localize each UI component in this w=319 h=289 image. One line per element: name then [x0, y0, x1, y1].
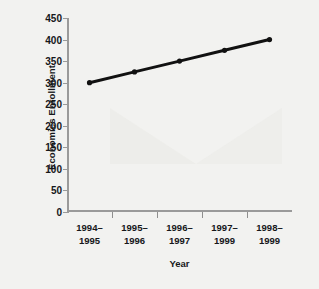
x-tick-label: 1994–1995 [76, 222, 102, 247]
y-tick-mark [63, 212, 68, 213]
x-tick-mark [202, 212, 203, 218]
x-tick-label: 1995–1996 [121, 222, 147, 247]
data-point-marker [177, 59, 182, 64]
y-tick-label: 150 [34, 142, 62, 153]
data-point-marker [132, 69, 137, 74]
y-tick-label: 50 [34, 185, 62, 196]
x-tick-mark [112, 212, 113, 218]
y-tick-mark [63, 104, 68, 105]
y-axis-tick-labels: 050100150200250300350400450 [34, 18, 62, 212]
y-tick-label: 300 [34, 77, 62, 88]
y-tick-mark [63, 169, 68, 170]
y-tick-mark [63, 83, 68, 84]
y-tick-mark [63, 190, 68, 191]
x-tick-mark [247, 212, 248, 218]
y-tick-mark [63, 61, 68, 62]
data-point-marker [87, 80, 92, 85]
y-tick-label: 250 [34, 99, 62, 110]
y-tick-mark [63, 147, 68, 148]
data-point-marker [267, 37, 272, 42]
x-axis-title: Year [67, 258, 292, 269]
data-point-marker [222, 48, 227, 53]
x-tick-mark [157, 212, 158, 218]
x-tick-label: 1996–1997 [166, 222, 192, 247]
y-tick-label: 450 [34, 13, 62, 24]
series-line-economics-enrollment [67, 18, 292, 212]
y-tick-mark [63, 18, 68, 19]
x-tick-label: 1997–1999 [211, 222, 237, 247]
y-tick-mark [63, 126, 68, 127]
chart-figure: Economics Enrollment 0501001502002503003… [0, 0, 319, 289]
x-axis-tick-labels: 1994–19951995–19961996–19971997–19991998… [67, 222, 292, 254]
y-tick-label: 400 [34, 34, 62, 45]
y-tick-label: 0 [34, 207, 62, 218]
y-tick-label: 100 [34, 163, 62, 174]
plot-area [67, 18, 292, 212]
y-tick-label: 350 [34, 56, 62, 67]
y-tick-label: 200 [34, 120, 62, 131]
x-tick-label: 1998–1999 [256, 222, 282, 247]
y-tick-mark [63, 40, 68, 41]
